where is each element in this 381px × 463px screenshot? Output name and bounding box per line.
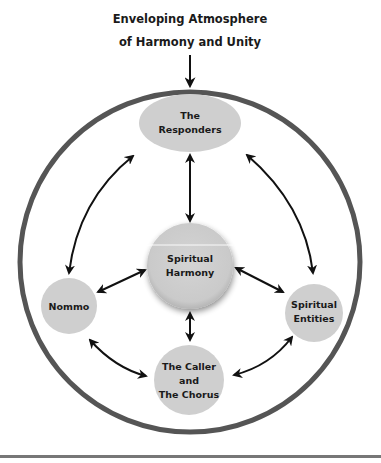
arrow-entities-caller <box>234 337 292 375</box>
title-line-2: of Harmony and Unity <box>119 35 262 49</box>
arrow-responders-entities <box>247 155 313 273</box>
harmony-diagram: Enveloping Atmosphere of Harmony and Uni… <box>0 0 381 463</box>
node-spiritual-entities: Spiritual Entities <box>285 284 343 342</box>
nommo-label: Nommo <box>49 301 90 312</box>
node-spiritual-harmony: Spiritual Harmony <box>147 223 233 309</box>
arrow-nommo-caller <box>90 340 146 376</box>
center-line-2: Harmony <box>166 267 215 278</box>
caller-line-2: and <box>179 375 199 386</box>
center-line-1: Spiritual <box>167 253 213 264</box>
entities-line-2: Entities <box>294 313 335 324</box>
arrow-responders-nommo <box>69 156 133 273</box>
entities-line-1: Spiritual <box>291 299 337 310</box>
caller-line-3: The Chorus <box>159 389 220 400</box>
caller-line-1: The Caller <box>162 361 216 372</box>
responders-line-2: Responders <box>158 124 221 135</box>
diagram-title: Enveloping Atmosphere of Harmony and Uni… <box>113 12 268 49</box>
title-line-1: Enveloping Atmosphere <box>113 12 268 26</box>
arrow-center-entities <box>236 268 283 292</box>
bottom-divider <box>0 455 381 458</box>
responders-line-1: The <box>180 110 200 121</box>
arrow-center-nommo <box>98 270 145 292</box>
node-responders: The Responders <box>139 94 241 152</box>
node-nommo: Nommo <box>41 278 97 334</box>
node-caller-chorus: The Caller and The Chorus <box>154 345 224 415</box>
